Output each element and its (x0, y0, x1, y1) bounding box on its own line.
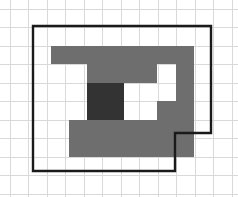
figure-canvas (0, 0, 238, 197)
dark-center-square (87, 83, 124, 120)
figure-svg (0, 0, 238, 197)
